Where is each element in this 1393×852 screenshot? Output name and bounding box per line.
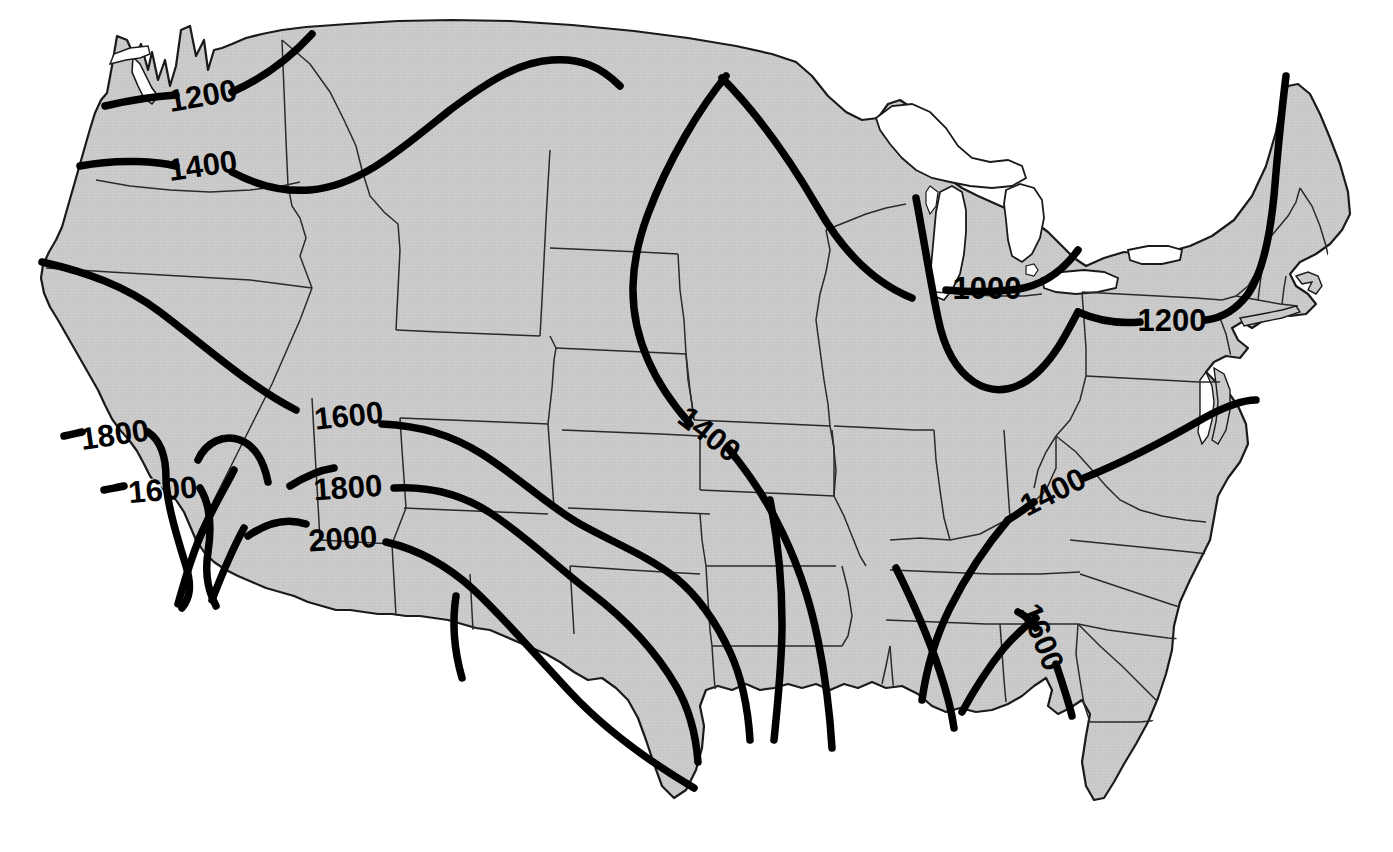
contour-label-1800-utah: 1800 — [312, 468, 383, 508]
contour-label-1600-ca: 1600 — [127, 469, 199, 510]
lake-ontario — [1128, 246, 1182, 264]
contour-label-1200-pennsylvania: 1200 — [1138, 303, 1207, 338]
contour-map-figure: 1200 1400 1800 1600 1600 1800 2000 1400 … — [0, 0, 1393, 852]
contour-label-1600-great-basin: 1600 — [313, 395, 385, 437]
contour-line-1600-ca — [104, 486, 124, 490]
contour-label-1000-michigan: 1000 — [953, 271, 1022, 306]
map-canvas: 1200 1400 1800 1600 1600 1800 2000 1400 … — [0, 0, 1393, 852]
contour-label-2000-arizona: 2000 — [307, 519, 378, 559]
